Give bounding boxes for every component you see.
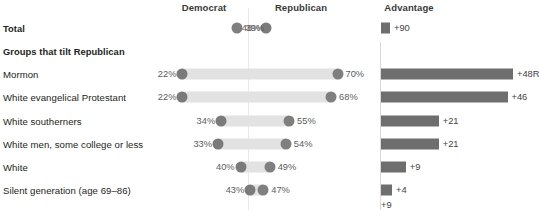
republican-value: 39%: [245, 23, 264, 33]
advantage-bar[interactable]: [381, 162, 406, 173]
advantage-value: +9: [410, 162, 421, 172]
row-label: White men, some college or less: [3, 139, 143, 150]
table-row[interactable]: Silent generation (age 69–86)43%47%+4: [0, 179, 470, 201]
republican-dot[interactable]: [284, 116, 295, 127]
table-row[interactable]: Total48%39%+90: [0, 17, 470, 39]
democrat-value: 34%: [189, 116, 215, 126]
table-row[interactable]: White men, some college or less33%54%+21: [0, 133, 470, 155]
dumbbell-track: [182, 69, 337, 80]
democrat-value: 22%: [150, 69, 176, 79]
advantage-value: +4: [396, 185, 407, 195]
table-row[interactable]: White southerners34%55%+21: [0, 110, 470, 132]
republican-value: 49%: [278, 162, 297, 172]
dumbbell-track: [221, 116, 289, 127]
advantage-bar[interactable]: [381, 185, 392, 196]
advantage-value: +21: [443, 116, 459, 126]
row-label: White evangelical Protestant: [3, 92, 126, 103]
republican-value: 55%: [297, 116, 316, 126]
advantage-value: +21: [443, 139, 459, 149]
democrat-value: 40%: [209, 162, 235, 172]
democrat-dot[interactable]: [235, 162, 246, 173]
row-label: White southerners: [3, 116, 82, 127]
table-row[interactable]: Mormon22%70%+48R: [0, 63, 470, 85]
advantage-bar[interactable]: [381, 139, 439, 150]
row-label: White: [3, 162, 28, 173]
dumbbell-track: [182, 92, 331, 103]
democrat-value: 33%: [186, 139, 212, 149]
advantage-value: +48R: [517, 69, 539, 79]
democrat-dot[interactable]: [177, 92, 188, 103]
republican-value: 70%: [346, 69, 365, 79]
row-label: Silent generation (age 69–86): [3, 185, 131, 196]
advantage-value: +90: [394, 23, 410, 33]
table-row[interactable]: White40%49%+9: [0, 156, 470, 178]
democrat-value: 43%: [218, 185, 244, 195]
row-label: Mormon: [3, 69, 39, 80]
republican-value: 68%: [339, 92, 358, 102]
table-row[interactable]: Groups that tilt Republican: [0, 40, 470, 62]
democrat-value: 22%: [150, 92, 176, 102]
democrat-dot[interactable]: [213, 139, 224, 150]
republican-dot[interactable]: [326, 92, 337, 103]
cutoff-advantage-label: +9: [381, 200, 392, 210]
democrat-dot[interactable]: [177, 69, 188, 80]
row-label: Groups that tilt Republican: [3, 46, 125, 57]
republican-dot[interactable]: [232, 23, 243, 34]
dumbbell-track: [218, 139, 286, 150]
row-label: Total: [3, 23, 25, 34]
republican-value: 54%: [294, 139, 313, 149]
republican-dot[interactable]: [332, 69, 343, 80]
republican-dot[interactable]: [258, 185, 269, 196]
advantage-bar[interactable]: [381, 92, 508, 103]
table-row[interactable]: White evangelical Protestant22%68%+46: [0, 86, 470, 108]
advantage-bar[interactable]: [381, 23, 390, 34]
advantage-bar[interactable]: [381, 116, 439, 127]
advantage-bar[interactable]: [381, 69, 513, 80]
column-header-republican: Republican: [262, 2, 340, 13]
column-header-democrat: Democrat: [160, 2, 248, 13]
column-header-advantage: Advantage: [378, 2, 440, 13]
republican-value: 47%: [271, 185, 290, 195]
republican-dot[interactable]: [264, 162, 275, 173]
republican-dot[interactable]: [280, 139, 291, 150]
advantage-value: +46: [512, 92, 528, 102]
democrat-dot[interactable]: [216, 116, 227, 127]
democrat-dot[interactable]: [245, 185, 256, 196]
